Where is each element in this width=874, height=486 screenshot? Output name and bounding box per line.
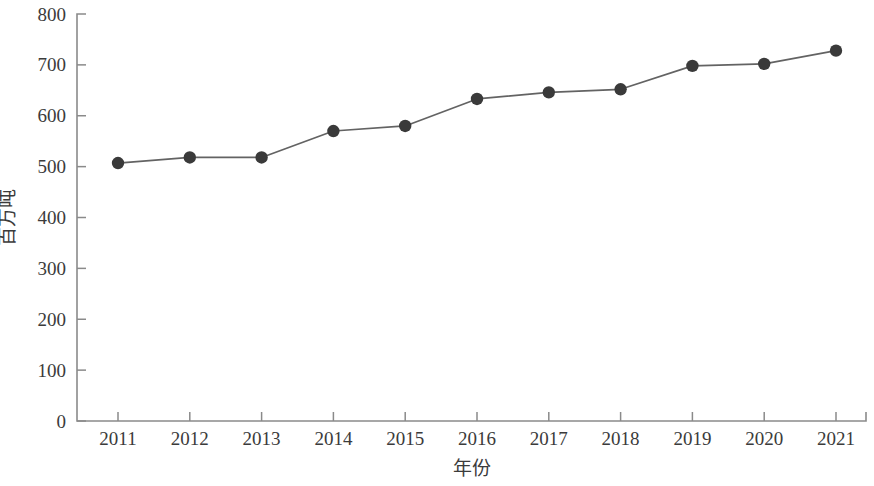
- x-tick-label: 2017: [530, 428, 568, 449]
- series-line: [118, 51, 836, 163]
- x-tick-label: 2019: [673, 428, 711, 449]
- y-tick-label: 200: [38, 309, 67, 330]
- x-tick-label: 2011: [99, 428, 136, 449]
- y-tick-label: 500: [38, 156, 67, 177]
- data-point-marker[interactable]: [399, 120, 411, 132]
- x-tick-label: 2018: [602, 428, 640, 449]
- y-tick-label: 800: [38, 4, 67, 25]
- x-axis-title: 年份: [453, 458, 491, 479]
- data-point-marker[interactable]: [471, 93, 483, 105]
- x-tick-label: 2014: [314, 428, 353, 449]
- y-tick-label: 400: [38, 207, 67, 228]
- x-tick-label: 2021: [817, 428, 855, 449]
- y-tick-label: 100: [38, 360, 67, 381]
- data-point-marker[interactable]: [255, 151, 267, 163]
- x-tick-label: 2012: [171, 428, 209, 449]
- line-chart: 0100200300400500600700800201120122013201…: [0, 0, 874, 486]
- x-tick-label: 2013: [243, 428, 281, 449]
- x-axis-spine: [77, 412, 866, 421]
- x-tick-label: 2020: [745, 428, 783, 449]
- y-tick-label: 600: [38, 105, 67, 126]
- y-tick-label: 0: [57, 411, 67, 432]
- data-point-marker[interactable]: [758, 58, 770, 70]
- data-point-marker[interactable]: [830, 44, 842, 56]
- chart-canvas: 0100200300400500600700800201120122013201…: [0, 0, 874, 486]
- y-axis-title: 百万吨: [0, 189, 18, 246]
- y-tick-label: 700: [38, 54, 67, 75]
- x-tick-label: 2016: [458, 428, 496, 449]
- data-point-marker[interactable]: [327, 125, 339, 137]
- y-tick-label: 300: [38, 258, 67, 279]
- data-point-marker[interactable]: [112, 157, 124, 169]
- data-point-marker[interactable]: [614, 83, 626, 95]
- data-point-marker[interactable]: [686, 60, 698, 72]
- x-tick-label: 2015: [386, 428, 424, 449]
- data-point-marker[interactable]: [184, 151, 196, 163]
- data-point-marker[interactable]: [543, 86, 555, 98]
